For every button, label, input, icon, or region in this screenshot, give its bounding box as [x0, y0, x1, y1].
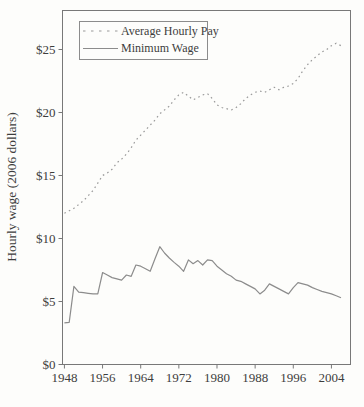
y-tick-label: $5 — [43, 294, 56, 309]
x-tick-label: 1972 — [166, 370, 192, 385]
series-line-minimum-wage — [64, 247, 341, 323]
y-tick-label: $10 — [36, 231, 56, 246]
x-tick-label: 1948 — [51, 370, 77, 385]
y-axis-label: Hourly wage (2006 dollars) — [4, 112, 19, 262]
x-tick-label: 2004 — [318, 370, 345, 385]
x-tick-label: 1996 — [280, 370, 307, 385]
plot-border — [63, 11, 351, 365]
y-tick-label: $15 — [36, 168, 56, 183]
series-line-average-hourly-pay — [64, 43, 341, 213]
legend-label-minimum-wage: Minimum Wage — [121, 41, 199, 55]
x-tick-label: 1988 — [242, 370, 268, 385]
legend-label-average-hourly-pay: Average Hourly Pay — [121, 24, 219, 38]
x-tick-label: 1964 — [128, 370, 155, 385]
chart-figure: $0$5$10$15$20$25194819561964197219801988… — [0, 0, 364, 407]
y-tick-label: $20 — [36, 105, 56, 120]
x-tick-label: 1956 — [90, 370, 117, 385]
x-tick-label: 1980 — [204, 370, 230, 385]
legend: Average Hourly Pay Minimum Wage — [80, 22, 219, 60]
y-tick-label: $25 — [36, 42, 56, 57]
wage-chart: $0$5$10$15$20$25194819561964197219801988… — [0, 0, 364, 407]
